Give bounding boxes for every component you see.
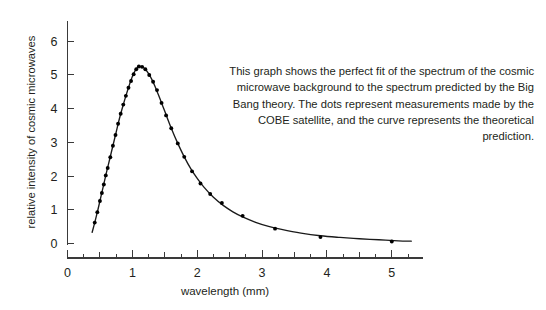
cobe-data-point — [132, 72, 136, 76]
cobe-data-point — [121, 103, 125, 107]
cobe-data-point — [114, 133, 118, 137]
y-tick-label: 0 — [51, 237, 58, 251]
cobe-data-point — [129, 79, 133, 83]
y-axis-title: relative intensity of cosmic microwaves — [25, 17, 37, 247]
cobe-data-point — [273, 227, 277, 231]
cobe-data-point — [111, 144, 115, 148]
x-tick-label: 2 — [194, 266, 201, 280]
cobe-data-point — [108, 155, 112, 159]
cobe-data-point — [104, 173, 108, 177]
cobe-data-point — [155, 88, 159, 92]
cobe-data-point — [95, 210, 99, 214]
cobe-data-point — [151, 80, 155, 84]
cobe-data-point — [160, 101, 164, 105]
cobe-data-point — [176, 141, 180, 145]
cobe-data-point — [164, 113, 168, 117]
cobe-data-point — [220, 201, 224, 205]
cobe-data-point — [124, 94, 128, 98]
cobe-data-point — [143, 67, 147, 71]
y-tick-label: 2 — [51, 170, 58, 184]
x-tick-label: 3 — [259, 266, 266, 280]
cobe-data-point — [199, 182, 203, 186]
cobe-data-point — [98, 199, 102, 203]
cobe-data-point — [182, 155, 186, 159]
cobe-data-point — [102, 183, 106, 187]
cobe-data-point — [93, 221, 97, 225]
y-tick-label: 5 — [51, 68, 58, 82]
cobe-data-point — [208, 192, 212, 196]
y-tick-label: 6 — [51, 35, 58, 49]
cobe-data-point — [190, 169, 194, 173]
cobe-data-point — [106, 166, 110, 170]
x-tick-label: 5 — [388, 266, 395, 280]
chart-axes: 0123456012345 — [51, 21, 423, 280]
cmb-spectrum-chart: 0123456012345 wavelength (mm) — [0, 0, 546, 310]
cobe-data-point — [319, 235, 323, 239]
x-tick-label: 0 — [64, 266, 71, 280]
cobe-data-point — [119, 112, 123, 116]
y-tick-label: 4 — [51, 102, 58, 116]
cobe-data-point — [390, 240, 394, 244]
cobe-data-point — [169, 126, 173, 130]
y-tick-label: 3 — [51, 136, 58, 150]
cobe-data-point — [127, 86, 131, 90]
cobe-data-point — [140, 65, 144, 69]
cobe-data-point — [100, 191, 104, 195]
x-tick-label: 1 — [129, 266, 136, 280]
y-tick-label: 1 — [51, 203, 58, 217]
cobe-data-point — [147, 73, 151, 77]
x-axis-title: wavelength (mm) — [180, 285, 269, 297]
chart-annotation-text: This graph shows the perfect fit of the … — [218, 63, 534, 144]
cmb-spectrum-figure: 0123456012345 wavelength (mm) relative i… — [0, 0, 546, 310]
x-tick-label: 4 — [323, 266, 330, 280]
cobe-data-point — [116, 122, 120, 126]
cobe-data-point — [241, 214, 245, 218]
